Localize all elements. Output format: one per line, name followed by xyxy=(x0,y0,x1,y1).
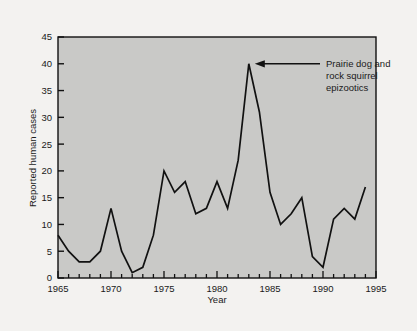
annotation-line-3: epizootics xyxy=(326,82,368,93)
y-tick-label: 0 xyxy=(47,272,52,283)
y-tick-label: 45 xyxy=(41,31,52,42)
x-tick-label: 1995 xyxy=(365,283,386,294)
x-tick-label: 1990 xyxy=(312,283,333,294)
y-tick-label: 20 xyxy=(41,165,52,176)
y-tick-label: 35 xyxy=(41,85,52,96)
x-axis-title: Year xyxy=(207,294,226,305)
x-tick-label: 1970 xyxy=(100,283,121,294)
y-tick-label: 30 xyxy=(41,112,52,123)
x-tick-label: 1980 xyxy=(206,283,227,294)
y-tick-label: 25 xyxy=(41,139,52,150)
x-tick-label: 1985 xyxy=(259,283,280,294)
x-tick-label: 1965 xyxy=(47,283,68,294)
y-tick-label: 15 xyxy=(41,192,52,203)
annotation-line-1: Prairie dog and xyxy=(326,58,390,69)
x-tick-label: 1975 xyxy=(153,283,174,294)
chart-figure: 051015202530354045 196519701975198019851… xyxy=(0,0,417,331)
line-chart: 051015202530354045 196519701975198019851… xyxy=(0,0,417,331)
annotation-line-2: rock squirrel xyxy=(326,70,378,81)
y-tick-label: 10 xyxy=(41,219,52,230)
y-tick-label: 5 xyxy=(47,246,52,257)
y-axis-title: Reported human cases xyxy=(27,109,38,207)
y-tick-label: 40 xyxy=(41,58,52,69)
